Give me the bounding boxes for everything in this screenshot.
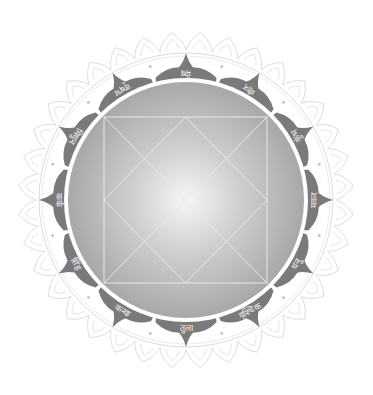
lace-inner-arch bbox=[141, 344, 154, 356]
lace-arch bbox=[19, 200, 39, 226]
lace-inner-arch bbox=[336, 180, 347, 193]
lace-inner-arch bbox=[244, 54, 256, 66]
lace-inner-arch bbox=[193, 350, 206, 361]
lace-inner-arch bbox=[320, 258, 332, 270]
ring-dot bbox=[282, 101, 285, 104]
ring-dot bbox=[282, 296, 285, 299]
lace-arch bbox=[19, 174, 39, 200]
lace-inner-arch bbox=[330, 155, 342, 168]
kundli-wheel: मेषमीनकुंभमकरधनुवृश्चिकतुलाकन्यासिंहकर्क… bbox=[0, 0, 373, 395]
ring-dot bbox=[318, 234, 321, 237]
lace-arch bbox=[186, 33, 212, 53]
lace-inner-arch bbox=[166, 40, 179, 51]
lace-inner-arch bbox=[244, 334, 256, 346]
ring-dot bbox=[318, 163, 321, 166]
lace-inner-arch bbox=[330, 233, 342, 246]
lace-arch bbox=[186, 348, 212, 368]
sign-label-cancer: कर्क bbox=[54, 193, 65, 208]
lace-inner-arch bbox=[141, 44, 154, 56]
lace-inner-arch bbox=[116, 334, 128, 346]
lace-arch bbox=[160, 33, 186, 53]
lace-inner-arch bbox=[320, 130, 332, 142]
lace-inner-arch bbox=[166, 350, 179, 361]
ring-dot bbox=[220, 332, 223, 335]
ring-dot bbox=[220, 65, 223, 68]
lace-arch bbox=[160, 348, 186, 368]
lace-inner-arch bbox=[40, 130, 52, 142]
lace-inner-arch bbox=[26, 180, 37, 193]
lace-inner-arch bbox=[26, 207, 37, 220]
ring-dot bbox=[51, 234, 54, 237]
ring-dot bbox=[87, 296, 90, 299]
lace-inner-arch bbox=[193, 40, 206, 51]
lace-inner-arch bbox=[219, 44, 232, 56]
sign-label-aries: मेष bbox=[180, 68, 191, 79]
lace-inner-arch bbox=[30, 233, 42, 246]
sign-label-libra: तुला bbox=[180, 323, 194, 334]
lace-inner-arch bbox=[336, 207, 347, 220]
ring-dot bbox=[87, 101, 90, 104]
lace-inner-arch bbox=[116, 54, 128, 66]
sign-label-capricorn: मकर bbox=[309, 192, 319, 208]
lace-arch bbox=[334, 174, 354, 200]
ring-dot bbox=[149, 65, 152, 68]
ring-dot bbox=[149, 332, 152, 335]
lace-inner-arch bbox=[40, 258, 52, 270]
lace-inner-arch bbox=[30, 155, 42, 168]
ring-dot bbox=[51, 163, 54, 166]
lace-inner-arch bbox=[219, 344, 232, 356]
lace-arch bbox=[334, 200, 354, 226]
